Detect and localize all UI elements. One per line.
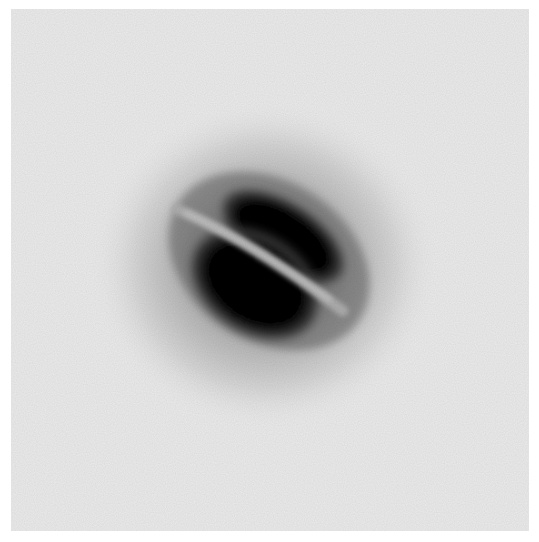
image-canvas: Dark elliptical galaxy bisected diagonal…	[0, 0, 539, 542]
galaxy-image	[11, 9, 529, 531]
sky-background	[11, 9, 529, 531]
noise-overlay	[11, 9, 529, 531]
